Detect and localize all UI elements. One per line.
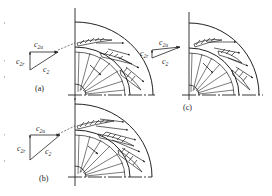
label-c2u-c: c2u bbox=[159, 38, 168, 48]
caption-b: (b) bbox=[39, 174, 49, 183]
label-c2r-c: c2r bbox=[140, 49, 149, 59]
label-c2u-b: c2u bbox=[36, 124, 45, 134]
casing-arc bbox=[189, 23, 259, 95]
panel-b bbox=[58, 98, 152, 186]
label-c2-c: c2 bbox=[162, 57, 169, 67]
diffuser-vanes bbox=[194, 38, 250, 90]
panel-c bbox=[182, 12, 263, 100]
margin-marks bbox=[4, 22, 5, 162]
label-c2r-a: c2r bbox=[16, 57, 25, 67]
label-c2r-b: c2r bbox=[17, 144, 26, 154]
label-c2-a: c2 bbox=[43, 65, 50, 75]
label-c2u-a: c2u bbox=[34, 40, 43, 50]
label-c2-b: c2 bbox=[45, 147, 52, 157]
caption-c: (c) bbox=[183, 103, 192, 112]
caption-a: (a) bbox=[35, 84, 44, 93]
impeller-diagram: c2u c2r c2 (a) bbox=[0, 0, 272, 196]
velocity-triangle-c bbox=[152, 47, 180, 58]
